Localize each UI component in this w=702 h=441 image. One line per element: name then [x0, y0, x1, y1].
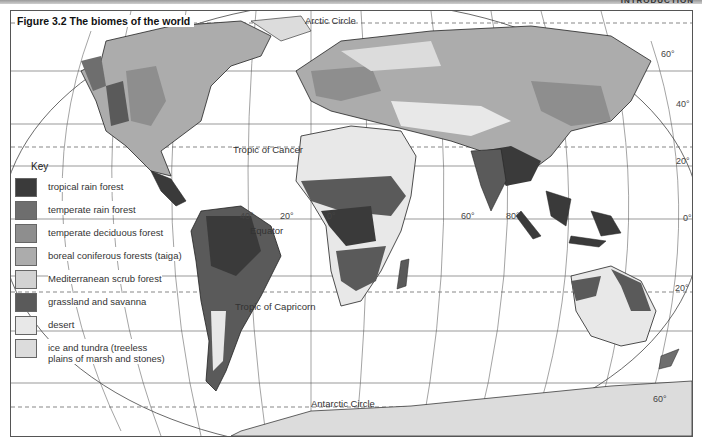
lon-60e-label: 60°: [461, 211, 475, 221]
key-item-temperate-rain-forest: temperate rain forest: [15, 201, 185, 224]
key-title: Key: [31, 161, 185, 172]
lat-60n-label: 60°: [661, 49, 675, 59]
lon-80e-label: 80°: [506, 211, 520, 221]
key-item-desert: desert: [15, 316, 185, 339]
key-item-boreal-coniferous-forests: boreal coniferous forests (taiga): [15, 247, 185, 270]
arctic-circle-label: Arctic Circle: [305, 15, 356, 26]
tropic-of-capricorn-label: Tropic of Capricorn: [235, 301, 315, 312]
key-item-mediterranean-scrub-forest: Mediterranean scrub forest: [15, 270, 185, 293]
lat-20s-label: 20°: [675, 283, 689, 293]
lat-60s-label: 60°: [653, 394, 667, 404]
lon-0-label: 0°: [327, 211, 336, 221]
key-item-ice-and-tundra: ice and tundra (treeless plains of marsh…: [15, 339, 185, 369]
section-title: INTRODUCTION: [621, 0, 694, 5]
swatch-ice-and-tundra: [15, 339, 37, 358]
key-item-temperate-deciduous-forest: temperate deciduous forest: [15, 224, 185, 247]
equator-label: Equator: [250, 225, 283, 236]
swatch-boreal-coniferous-forests: [15, 247, 37, 266]
key-item-grassland-and-savanna: grassland and savanna: [15, 293, 185, 316]
lon-40w-label: 40°: [240, 211, 254, 221]
tropic-of-cancer-label: Tropic of Cancer: [233, 144, 303, 155]
lon-20w-label: 20°: [280, 211, 294, 221]
lat-0-label: 0°: [683, 213, 692, 223]
lat-40n-label: 40°: [676, 99, 690, 109]
figure-title: Figure 3.2 The biomes of the world: [17, 15, 194, 27]
key-item-tropical-rain-forest: tropical rain forest: [15, 178, 185, 201]
swatch-desert: [15, 316, 37, 335]
swatch-grassland-and-savanna: [15, 293, 37, 312]
antarctic-circle-label: Antarctic Circle: [311, 398, 375, 409]
swatch-temperate-rain-forest: [15, 201, 37, 220]
figure-frame: Figure 3.2 The biomes of the world: [10, 10, 693, 437]
lat-20n-label: 20°: [676, 156, 690, 166]
swatch-mediterranean-scrub-forest: [15, 270, 37, 289]
page-header-bar: [0, 0, 702, 4]
map-key: Key tropical rain forest temperate rain …: [15, 161, 185, 369]
swatch-temperate-deciduous-forest: [15, 224, 37, 243]
swatch-tropical-rain-forest: [15, 178, 37, 197]
